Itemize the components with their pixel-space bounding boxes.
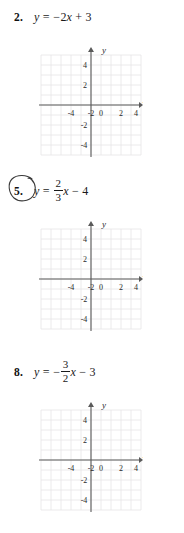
- x-tick-label-zero: 0: [99, 283, 103, 292]
- coordinate-plane-svg: -4 -2 0 2 4 4 2 -2 -4 y x: [39, 218, 143, 332]
- problem-number: 8.: [14, 366, 23, 378]
- x-tick-label-neg4: -4: [68, 464, 75, 473]
- equation-expression: y = − 2 x + 3: [34, 10, 92, 25]
- x-tick-label-neg4: -4: [68, 109, 75, 118]
- equals-sign: =: [43, 10, 50, 25]
- constant-sign: −: [72, 184, 79, 199]
- y-tick-label-2: 2: [83, 81, 87, 90]
- x-tick-label-neg2: -2: [88, 464, 95, 473]
- equation-line: 5. y = 2 3 x − 4: [0, 174, 184, 208]
- constant-value: 4: [82, 184, 88, 199]
- y-axis-arrow: [88, 402, 94, 407]
- fraction-denominator: 2: [62, 373, 70, 384]
- equation-expression: y = − 3 2 x − 3: [34, 360, 96, 385]
- problem-block: 2. y = − 2 x + 3: [0, 0, 184, 174]
- y-axis-arrow: [88, 221, 94, 226]
- equation-variable: x: [70, 365, 75, 380]
- y-tick-label-2: 2: [83, 255, 87, 264]
- y-axis-label: y: [101, 45, 106, 55]
- y-tick-label-4: 4: [83, 416, 87, 425]
- y-tick-label-neg2: -2: [81, 476, 88, 485]
- x-tick-label-2: 2: [119, 283, 123, 292]
- graph-area: -4 -2 0 2 4 4 2 -2 -4 y x: [0, 34, 184, 174]
- equation-expression: y = 2 3 x − 4: [34, 179, 88, 204]
- x-tick-label-4: 4: [134, 283, 138, 292]
- equation-lhs: y: [34, 10, 39, 25]
- y-tick-label-neg4: -4: [81, 315, 88, 324]
- coordinate-plane-svg: -4 -2 0 2 4 4 2 -2 -4 y x: [39, 399, 143, 513]
- y-tick-label-neg4: -4: [81, 496, 88, 505]
- fraction-numerator: 3: [62, 359, 70, 370]
- x-axis-label: x: [142, 269, 143, 279]
- slope-sign: −: [53, 365, 60, 380]
- y-tick-label-neg2: -2: [81, 121, 88, 130]
- equals-sign: =: [43, 184, 50, 199]
- constant-value: 3: [86, 10, 92, 25]
- x-tick-label-neg2: -2: [88, 109, 95, 118]
- fraction-numerator: 2: [54, 178, 62, 189]
- x-tick-label-neg2: -2: [88, 283, 95, 292]
- x-tick-label-neg4: -4: [68, 283, 75, 292]
- x-tick-label-zero: 0: [99, 109, 103, 118]
- y-tick-label-neg4: -4: [81, 141, 88, 150]
- equation-variable: x: [63, 184, 68, 199]
- fraction-denominator: 3: [54, 192, 62, 203]
- problem-number: 5.: [14, 185, 23, 197]
- x-tick-label-zero: 0: [99, 464, 103, 473]
- coordinate-grid: -4 -2 0 2 4 4 2 -2 -4 y x: [39, 44, 143, 158]
- y-tick-label-4: 4: [83, 235, 87, 244]
- x-axis-label: x: [142, 95, 143, 105]
- y-axis-arrow: [88, 47, 94, 52]
- coordinate-plane-svg: -4 -2 0 2 4 4 2 -2 -4 y x: [39, 44, 143, 158]
- slope-fraction: 3 2: [61, 359, 70, 384]
- coordinate-grid: -4 -2 0 2 4 4 2 -2 -4 y x: [39, 218, 143, 332]
- equation-lhs: y: [34, 184, 39, 199]
- y-axis-label: y: [101, 400, 106, 410]
- equation-lhs: y: [34, 365, 39, 380]
- y-tick-label-2: 2: [83, 436, 87, 445]
- equation-variable: x: [66, 10, 71, 25]
- graph-area: -4 -2 0 2 4 4 2 -2 -4 y x: [0, 208, 184, 348]
- graph-area: -4 -2 0 2 4 4 2 -2 -4 y x: [0, 389, 184, 529]
- y-axis-label: y: [101, 219, 106, 229]
- constant-sign: −: [79, 365, 86, 380]
- equation-line: 2. y = − 2 x + 3: [0, 0, 184, 34]
- y-tick-label-4: 4: [83, 61, 87, 70]
- equation-line: 8. y = − 3 2 x − 3: [0, 355, 184, 389]
- problem-number: 2.: [14, 11, 23, 23]
- coordinate-grid: -4 -2 0 2 4 4 2 -2 -4 y x: [39, 399, 143, 513]
- constant-value: 3: [90, 365, 96, 380]
- y-tick-label-neg2: -2: [81, 295, 88, 304]
- equals-sign: =: [43, 365, 50, 380]
- constant-sign: +: [75, 10, 82, 25]
- slope-fraction: 2 3: [54, 178, 63, 203]
- x-tick-label-2: 2: [119, 464, 123, 473]
- slope-sign: −: [53, 10, 60, 25]
- problem-block: 5. y = 2 3 x − 4: [0, 174, 184, 348]
- x-axis-label: x: [142, 450, 143, 460]
- x-tick-label-2: 2: [119, 109, 123, 118]
- x-tick-label-4: 4: [134, 464, 138, 473]
- problem-block: 8. y = − 3 2 x − 3: [0, 355, 184, 529]
- x-tick-label-4: 4: [134, 109, 138, 118]
